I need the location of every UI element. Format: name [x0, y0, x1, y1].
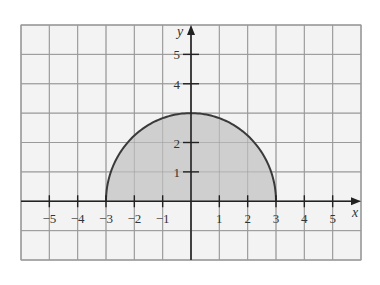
x-tick-label: −4	[71, 211, 85, 226]
y-tick-label: 4	[174, 77, 181, 92]
y-tick-label: 2	[174, 136, 181, 151]
semicircle-chart: −5−4−3−2−1123451245 x y	[0, 0, 380, 285]
y-tick-label: 1	[174, 165, 181, 180]
x-tick-label: 2	[244, 211, 251, 226]
y-axis-label: y	[175, 24, 184, 39]
x-tick-label: 5	[329, 211, 336, 226]
x-tick-label: 4	[301, 211, 308, 226]
x-tick-label: −3	[99, 211, 113, 226]
x-tick-label: −5	[42, 211, 56, 226]
x-tick-label: −1	[156, 211, 170, 226]
x-tick-label: 3	[273, 211, 280, 226]
x-tick-label: −2	[127, 211, 141, 226]
x-axis-label: x	[351, 205, 359, 220]
y-tick-label: 5	[174, 47, 181, 62]
x-tick-label: 1	[216, 211, 223, 226]
